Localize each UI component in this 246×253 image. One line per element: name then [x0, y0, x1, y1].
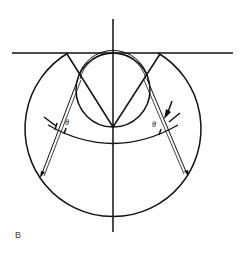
panel-label: B — [15, 230, 21, 240]
tick-mark — [169, 113, 180, 122]
v-line-right — [113, 54, 160, 127]
arrow-head-icon — [164, 109, 171, 119]
left-wire-outer — [41, 79, 78, 176]
left-wire-inner — [44, 80, 81, 176]
geometry-diagram: θ θ — [0, 0, 246, 253]
tick-mark — [44, 117, 56, 126]
theta-label-left: θ — [65, 118, 69, 127]
theta-label-right: θ — [152, 120, 156, 129]
arrow-head-icon — [184, 170, 189, 176]
right-wire-inner — [144, 80, 184, 174]
